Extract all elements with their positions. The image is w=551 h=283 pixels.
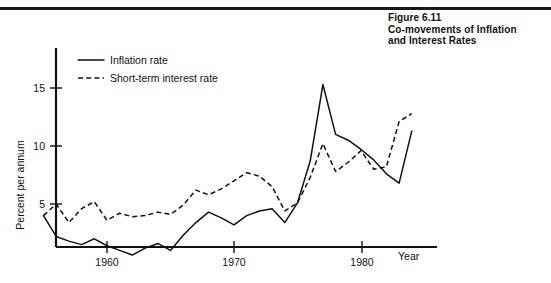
x-tick-label-1980: 1980	[350, 256, 374, 268]
series-line-inflation-rate	[44, 85, 412, 256]
legend-label-inflation: Inflation rate	[110, 54, 168, 66]
legend: Inflation rate Short-term interest rate	[78, 54, 218, 84]
y-tick-label-5: 5	[39, 198, 45, 210]
legend-label-interest: Short-term interest rate	[110, 72, 218, 84]
y-tick-label-15: 15	[33, 82, 45, 94]
series-line-short-term-interest-rate	[44, 114, 412, 223]
chart-canvas: 15 10 5 1960 1970 1980 Year Percent per …	[0, 0, 551, 283]
x-tick-label-1960: 1960	[95, 256, 119, 268]
x-tick-label-1970: 1970	[222, 256, 246, 268]
x-axis-label: Year	[398, 250, 420, 262]
y-axis-label: Percent per annum	[14, 140, 26, 230]
y-tick-label-10: 10	[33, 140, 45, 152]
line-chart: 15 10 5 1960 1970 1980 Year Percent per …	[0, 0, 551, 283]
